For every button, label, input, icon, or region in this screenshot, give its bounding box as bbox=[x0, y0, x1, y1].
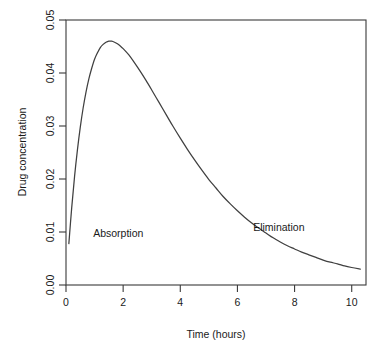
y-tick-label: 0.01 bbox=[44, 222, 56, 243]
x-tick-label: 6 bbox=[235, 296, 241, 308]
x-axis-ticks bbox=[66, 285, 352, 292]
x-tick-label: 2 bbox=[120, 296, 126, 308]
x-axis-tick-labels: 0246810 bbox=[63, 296, 358, 308]
x-tick-label: 4 bbox=[177, 296, 183, 308]
plot-frame bbox=[66, 20, 366, 285]
x-axis-title: Time (hours) bbox=[186, 328, 245, 340]
y-tick-label: 0.02 bbox=[44, 169, 56, 190]
annotation-label: Elimination bbox=[253, 221, 305, 233]
y-axis-ticks bbox=[59, 20, 66, 285]
y-axis-tick-labels: 0.000.010.020.030.040.05 bbox=[44, 10, 56, 296]
x-tick-label: 0 bbox=[63, 296, 69, 308]
drug-concentration-chart: 0.000.010.020.030.040.05 0246810 Absorpt… bbox=[0, 0, 382, 353]
y-tick-label: 0.00 bbox=[44, 275, 56, 296]
y-tick-label: 0.05 bbox=[44, 10, 56, 31]
y-axis-title: Drug concentration bbox=[16, 107, 28, 196]
x-tick-label: 8 bbox=[292, 296, 298, 308]
x-tick-label: 10 bbox=[346, 296, 358, 308]
curve-annotations: AbsorptionElimination bbox=[93, 221, 305, 239]
y-tick-label: 0.03 bbox=[44, 116, 56, 137]
annotation-label: Absorption bbox=[93, 227, 143, 239]
y-tick-label: 0.04 bbox=[44, 63, 56, 84]
plot-svg: 0.000.010.020.030.040.05 0246810 Absorpt… bbox=[0, 0, 382, 353]
